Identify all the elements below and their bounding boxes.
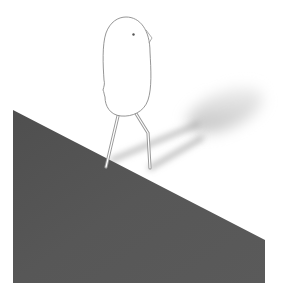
bird-eye — [132, 33, 134, 35]
shadow-head — [181, 78, 269, 141]
bird-body — [103, 17, 151, 116]
illustration-scene — [0, 0, 281, 296]
scene-canvas — [0, 0, 281, 296]
shadow-leg-left — [112, 124, 198, 160]
leg-right — [135, 112, 150, 168]
dark-slope — [13, 110, 265, 283]
